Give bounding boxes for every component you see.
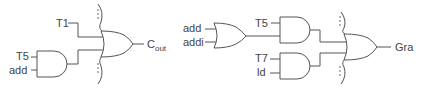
- right-circuit: add addi T5 T7 ld Gra: [183, 12, 414, 84]
- wire-or-inputs: [205, 29, 216, 42]
- and-gate-bottom-icon: [280, 53, 310, 79]
- or-gate-icon: [101, 31, 133, 57]
- input-label-add: add: [9, 64, 27, 76]
- input-label-t5: T5: [16, 50, 29, 62]
- wire-and-bottom-inputs: [270, 59, 280, 73]
- input-label-ld: ld: [257, 66, 266, 78]
- left-circuit: T1 T5 add Cout: [9, 4, 167, 84]
- logic-diagram: T1 T5 add Cout add addi T5 T7 ld: [0, 0, 424, 92]
- or-gate-small-icon: [214, 23, 246, 48]
- or-gate-final-icon: [344, 34, 377, 60]
- wire-and-bottom-to-or: [310, 53, 347, 66]
- input-label-t5-right: T5: [255, 17, 268, 29]
- and-gate-top-icon: [280, 17, 310, 43]
- input-label-t7: T7: [255, 52, 268, 64]
- wire-t1: [68, 23, 104, 37]
- input-label-add-right: add: [183, 22, 201, 34]
- wire-and-inputs: [31, 57, 37, 70]
- brace-right-icon: [341, 12, 345, 84]
- output-label-cout: Cout: [147, 38, 167, 53]
- and-gate-icon: [37, 51, 67, 77]
- input-label-t1: T1: [56, 17, 69, 29]
- wire-and-to-or: [67, 50, 104, 64]
- input-label-addi: addi: [183, 36, 204, 48]
- output-label-gra: Gra: [395, 41, 414, 53]
- wire-and-top-to-or: [310, 30, 347, 42]
